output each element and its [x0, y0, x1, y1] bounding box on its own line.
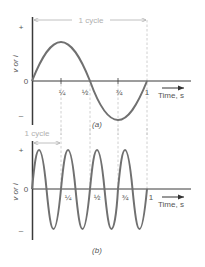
panel-b-tick-half: ½ — [94, 193, 101, 202]
panel-a-caption: (a) — [92, 120, 102, 129]
panel-a-plus-label: + — [19, 23, 24, 32]
panel-b-x-axis-label: Time, s — [158, 200, 184, 209]
panel-b: 1 cycle + 0 – v or i ¼ ½ ¾ 1 Time, s (b) — [11, 128, 191, 255]
panel-a-cycle-label: 1 cycle — [79, 16, 104, 25]
panel-b-tick-one: 1 — [149, 193, 154, 202]
panel-b-zero-label: 0 — [24, 185, 29, 194]
panel-a-x-axis-label: Time, s — [158, 91, 184, 100]
panel-a-tick-one: 1 — [145, 88, 150, 97]
panel-b-minus-label: – — [19, 226, 24, 235]
panel-a-y-axis-label: v or i — [11, 55, 20, 73]
panel-b-tick-quarter: ¼ — [65, 193, 72, 202]
panel-a-tick-quarter: ¼ — [59, 88, 66, 97]
panel-a-zero-label: 0 — [24, 77, 29, 86]
panel-b-y-axis-label: v or i — [11, 183, 20, 201]
panel-b-plus-label: + — [19, 146, 24, 155]
panel-a-tick-half: ½ — [82, 88, 89, 97]
panel-a-tick-three-quarter: ¾ — [116, 88, 123, 97]
panel-a-gridlines — [61, 20, 147, 135]
panel-b-cycle-label: 1 cycle — [25, 129, 50, 138]
panel-a: 1 cycle + 0 – v or i ¼ ½ ¾ 1 Time, s (a) — [11, 16, 191, 135]
panel-b-caption: (b) — [92, 246, 102, 255]
sine-wave-diagram: 1 cycle + 0 – v or i ¼ ½ ¾ 1 Time, s (a) — [0, 0, 205, 267]
panel-b-tick-three-quarter: ¾ — [122, 193, 129, 202]
panel-a-minus-label: – — [19, 111, 24, 120]
